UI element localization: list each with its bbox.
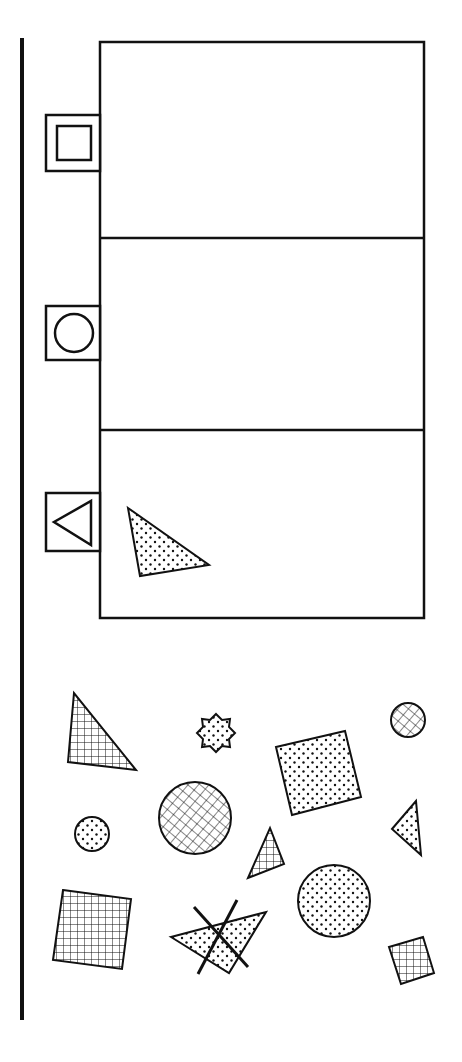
- dotted-circle-large[interactable]: [298, 865, 370, 937]
- bin-circle[interactable]: [46, 306, 100, 360]
- grid-triangle-1[interactable]: [68, 693, 136, 770]
- dotted-circle-small[interactable]: [75, 817, 109, 851]
- grid-square-large[interactable]: [53, 890, 131, 969]
- dotted-square-1[interactable]: [276, 731, 361, 815]
- worksheet-canvas: [0, 0, 462, 1062]
- dotted-triangle-sorted[interactable]: [128, 508, 209, 576]
- grid-circle-large[interactable]: [159, 782, 231, 854]
- grid-triangle-2[interactable]: [248, 828, 284, 878]
- crossed-out-triangle[interactable]: [171, 900, 266, 974]
- grid-square-small[interactable]: [389, 937, 434, 984]
- grid-circle-small[interactable]: [391, 703, 425, 737]
- dotted-star[interactable]: [197, 714, 235, 752]
- dotted-triangle-2[interactable]: [392, 801, 421, 855]
- bin-triangle[interactable]: [46, 493, 100, 551]
- bin-square[interactable]: [46, 115, 100, 171]
